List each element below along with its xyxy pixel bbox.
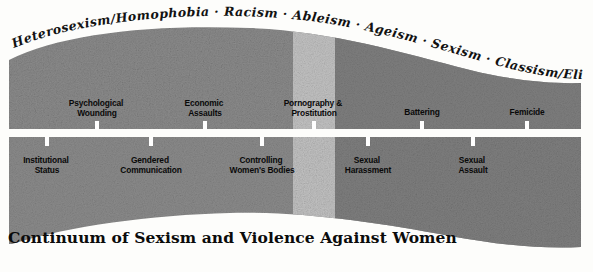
figure-title: Continuum of Sexism and Violence Against… [8,228,457,247]
upper-label-pornography-prostitution: Pornography & Prostitution [284,98,345,118]
lower-label-sexual-assault: Sexual Assault [458,155,488,175]
light-column-upper [293,20,335,135]
upper-label-femicide: Femicide [509,107,545,117]
upper-label-economic-assaults: Economic Assaults [184,98,225,118]
figure-canvas: Psychological Wounding Economic Assaults… [0,0,593,272]
upper-band [0,20,593,135]
upper-label-battering: Battering [404,107,439,117]
